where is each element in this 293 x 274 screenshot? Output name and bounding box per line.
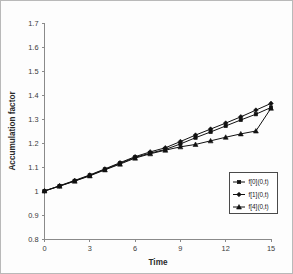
x-tick-label: 6 — [133, 244, 137, 253]
x-axis-title: Time — [149, 258, 168, 267]
y-tick-label: 1 — [34, 187, 38, 196]
y-tick-label: 1.2 — [28, 139, 38, 148]
x-axis-ticks: 03691215 — [42, 239, 275, 253]
accumulation-factor-line-chart: 0.80.911.11.21.31.41.51.61.7 03691215 Ac… — [1, 1, 293, 274]
legend-label: f[4](0,t) — [249, 203, 269, 211]
y-axis-title: Accumulation factor — [8, 91, 17, 171]
y-tick-label: 0.9 — [28, 211, 38, 220]
x-tick-label: 3 — [88, 244, 92, 253]
y-tick-label: 0.8 — [28, 235, 38, 244]
data-point — [269, 101, 274, 106]
legend-sample-marker — [237, 180, 240, 183]
y-tick-label: 1.4 — [28, 91, 38, 100]
legend-label: f[1](0,t) — [249, 191, 269, 199]
x-tick-label: 15 — [267, 244, 275, 253]
chart-figure: 0.80.911.11.21.31.41.51.61.7 03691215 Ac… — [0, 0, 293, 274]
data-point — [254, 113, 257, 116]
y-tick-label: 1.7 — [28, 19, 38, 28]
y-tick-label: 1.3 — [28, 115, 38, 124]
x-tick-label: 12 — [222, 244, 230, 253]
y-tick-label: 1.1 — [28, 163, 38, 172]
y-tick-label: 1.5 — [28, 67, 38, 76]
legend-label: f[0](0,t) — [249, 178, 269, 186]
data-point — [254, 108, 259, 113]
x-tick-label: 9 — [178, 244, 182, 253]
y-tick-label: 1.6 — [28, 43, 38, 52]
chart-legend: f[0](0,t)f[1](0,t)f[4](0,t) — [230, 173, 278, 214]
x-tick-label: 0 — [42, 244, 46, 253]
y-axis-ticks: 0.80.911.11.21.31.41.51.61.7 — [28, 19, 44, 244]
